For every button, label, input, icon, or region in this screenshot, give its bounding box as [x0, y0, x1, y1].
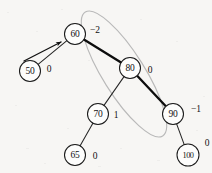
- node-value: 100: [182, 151, 193, 160]
- balance-factor-label: 1: [114, 110, 119, 120]
- tree-edge: [80, 123, 93, 146]
- node-value: 80: [125, 63, 135, 73]
- balance-factor-label: 0: [47, 64, 52, 74]
- tree-node: 60−2: [65, 24, 101, 45]
- tree-edge: [84, 40, 121, 63]
- tree-node: 701: [88, 104, 119, 125]
- tree-nodes: 60−250080070190−16501000: [20, 24, 210, 167]
- node-value: 60: [70, 29, 80, 39]
- tree-node: 650: [65, 145, 98, 166]
- node-value: 65: [70, 150, 80, 160]
- tree-node: 1000: [177, 138, 210, 166]
- tree-edge: [177, 124, 185, 145]
- balance-factor-label: −2: [90, 25, 100, 35]
- balance-factor-label: 0: [93, 151, 98, 161]
- tree-node: 800: [120, 58, 153, 79]
- balance-factor-label: 0: [205, 138, 210, 148]
- node-value: 70: [93, 109, 103, 119]
- tree-edge: [104, 77, 124, 106]
- insertion-pointer-arrow: [24, 42, 61, 61]
- tree-node: 90−1: [163, 104, 202, 125]
- tree-node: 500: [20, 61, 52, 82]
- balance-factor-label: −1: [191, 104, 201, 114]
- node-value: 90: [168, 109, 178, 119]
- avl-tree-figure: 60−250080070190−16501000: [0, 0, 212, 173]
- tree-edge: [38, 41, 67, 65]
- tree-diagram-canvas: 60−250080070190−16501000: [0, 0, 212, 173]
- balance-factor-label: 0: [148, 65, 153, 75]
- node-value: 50: [25, 66, 35, 76]
